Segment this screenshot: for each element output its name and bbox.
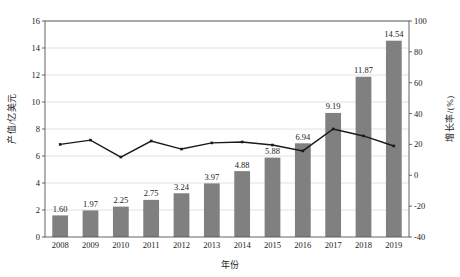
y-tick-label-right: 20: [414, 139, 423, 149]
y-axis-right-title: 增长率/(%): [443, 84, 456, 154]
bar: [174, 193, 190, 237]
line-marker: [150, 140, 153, 143]
line-marker: [89, 139, 92, 142]
y-tick-label-right: -20: [414, 201, 425, 211]
y-tick-label-right: 100: [414, 16, 427, 26]
x-tick-label: 2017: [325, 240, 342, 250]
bar-value-label: 1.60: [53, 204, 68, 214]
y-tick-label-left: 6: [36, 151, 40, 161]
line-marker: [241, 141, 244, 144]
y-tick-label-right: 60: [414, 78, 423, 88]
y-tick-label-left: 2: [36, 205, 40, 215]
bar: [113, 207, 129, 237]
x-tick-label: 2014: [234, 240, 252, 250]
bar: [204, 183, 220, 237]
growth-rate-line: [60, 129, 394, 157]
chart-container: 产值/亿美元 增长率/(%) 年份 0246810121416 -40-2002…: [0, 0, 460, 277]
y-tick-label-right: 80: [414, 47, 423, 57]
line-series-group: [60, 129, 394, 157]
x-tick-label: 2010: [112, 240, 129, 250]
y-axis-right-ticks: -40-20020406080100: [409, 16, 427, 242]
line-marker: [211, 142, 214, 145]
bar: [52, 215, 68, 237]
bar-value-label: 14.54: [384, 29, 404, 39]
bar: [295, 143, 311, 237]
line-marker: [362, 135, 365, 138]
bar-value-label: 3.24: [174, 182, 190, 192]
y-tick-label-left: 10: [32, 97, 41, 107]
line-marker: [393, 145, 396, 148]
bar: [325, 113, 341, 237]
x-tick-label: 2016: [294, 240, 311, 250]
x-tick-label: 2015: [264, 240, 281, 250]
x-tick-label: 2018: [355, 240, 372, 250]
bar: [386, 41, 402, 237]
y-tick-label-right: -40: [414, 232, 425, 242]
bar-value-label: 5.88: [265, 146, 280, 156]
y-tick-label-left: 8: [36, 124, 40, 134]
bar: [356, 77, 372, 237]
plot-area: 0246810121416 -40-20020406080100 2008200…: [0, 0, 460, 277]
bar-value-label: 2.75: [144, 188, 159, 198]
x-tick-label: 2008: [52, 240, 69, 250]
bar: [83, 210, 99, 237]
y-tick-label-right: 40: [414, 109, 423, 119]
bar-value-label: 2.25: [113, 195, 128, 205]
x-tick-label: 2011: [143, 240, 160, 250]
bars-group: [52, 41, 401, 237]
x-tick-label: 2012: [173, 240, 190, 250]
y-axis-left-ticks: 0246810121416: [32, 16, 46, 242]
y-tick-label-right: 0: [414, 170, 418, 180]
y-tick-label-left: 14: [32, 43, 41, 53]
line-marker: [180, 148, 183, 151]
x-axis-title: 年份: [0, 258, 460, 271]
gridlines-group: [45, 21, 409, 210]
x-axis-ticks: 2008200920102011201220132014201520162017…: [52, 240, 403, 250]
line-marker: [332, 128, 335, 131]
bar-value-label: 1.97: [83, 199, 98, 209]
bar-value-label: 3.97: [204, 172, 219, 182]
bar-value-label: 9.19: [326, 101, 341, 111]
bar: [265, 158, 281, 237]
bar-value-label: 11.87: [354, 65, 373, 75]
bar-value-label: 4.88: [235, 160, 250, 170]
bar: [143, 200, 159, 237]
bar-value-labels: 1.601.972.252.753.243.974.885.886.949.19…: [53, 29, 404, 214]
y-tick-label-left: 4: [36, 178, 41, 188]
x-tick-label: 2009: [82, 240, 99, 250]
x-tick-label: 2013: [203, 240, 220, 250]
line-marker: [59, 143, 62, 146]
line-marker: [302, 150, 305, 153]
x-tick-label: 2019: [385, 240, 402, 250]
bar-value-label: 6.94: [295, 132, 311, 142]
y-axis-left-title: 产值/亿美元: [5, 84, 18, 154]
y-tick-label-left: 16: [32, 16, 41, 26]
y-tick-label-left: 0: [36, 232, 40, 242]
y-tick-label-left: 12: [32, 70, 41, 80]
bar: [234, 171, 250, 237]
line-marker: [120, 156, 123, 159]
